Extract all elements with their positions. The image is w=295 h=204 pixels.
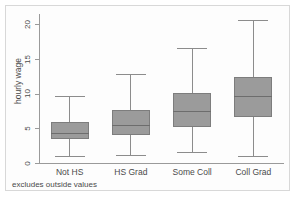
upper-whisker-stem xyxy=(253,20,254,77)
y-axis-title: hourly wage xyxy=(13,51,23,111)
y-tick-label: 20 xyxy=(23,15,32,33)
x-tick-label: Coll Grad xyxy=(213,167,293,177)
lower-whisker-cap xyxy=(238,156,268,157)
box-iqr-rect[interactable] xyxy=(51,122,89,139)
lower-whisker-cap xyxy=(116,155,146,156)
lower-whisker-cap xyxy=(55,156,85,157)
upper-whisker-stem xyxy=(130,74,131,110)
box-plot-group[interactable] xyxy=(173,14,211,163)
lower-whisker-stem xyxy=(253,117,254,156)
box-plot-group[interactable] xyxy=(234,14,272,163)
upper-whisker-cap xyxy=(55,96,85,97)
y-tick-label: 15 xyxy=(23,50,32,68)
y-tick-label: 10 xyxy=(23,85,32,103)
box-iqr-rect[interactable] xyxy=(173,93,211,127)
lower-whisker-stem xyxy=(192,127,193,152)
plot-area xyxy=(39,14,284,163)
y-tick-label: 5 xyxy=(23,119,32,137)
median-line xyxy=(173,111,211,112)
upper-whisker-cap xyxy=(177,48,207,49)
x-axis-line xyxy=(39,163,284,164)
upper-whisker-stem xyxy=(69,96,70,122)
upper-whisker-cap xyxy=(116,74,146,75)
median-line xyxy=(51,133,89,134)
lower-whisker-stem xyxy=(130,135,131,156)
boxplot-screenshot: hourly wage 05101520 Not HSHS GradSome C… xyxy=(0,0,295,204)
lower-whisker-stem xyxy=(69,139,70,156)
median-line xyxy=(234,96,272,97)
lower-whisker-cap xyxy=(177,152,207,153)
box-plot-group[interactable] xyxy=(112,14,150,163)
y-tick-mark xyxy=(35,163,39,164)
box-plot-group[interactable] xyxy=(51,14,89,163)
box-iqr-rect[interactable] xyxy=(112,110,150,134)
upper-whisker-cap xyxy=(238,20,268,21)
median-line xyxy=(112,125,150,126)
chart-footnote: excludes outside values xyxy=(12,180,97,189)
upper-whisker-stem xyxy=(192,48,193,93)
